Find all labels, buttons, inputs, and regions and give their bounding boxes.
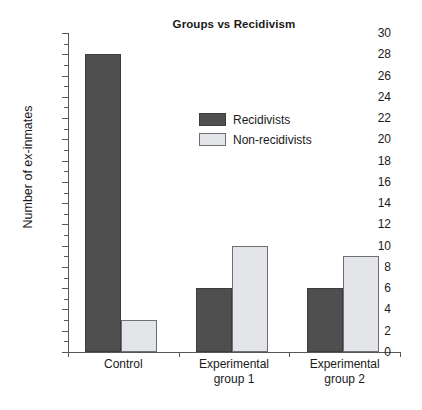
legend-swatch-icon-recidivists [199,113,226,126]
x-category-label-line: Experimental [310,357,380,371]
y-tick-label-18: 18 [378,154,391,168]
y-tick-label-16: 16 [378,175,391,189]
y-tick-9 [64,256,68,257]
y-axis-label: Number of ex-inmates [21,77,35,257]
x-category-label-line: Experimental [199,357,269,371]
y-tick-label-12: 12 [378,217,391,231]
y-tick-19 [64,150,68,151]
y-tick-label-14: 14 [378,196,391,210]
y-tick-25 [64,86,68,87]
y-tick-13 [64,214,68,215]
y-tick-17 [64,171,68,172]
y-tick-20 [62,139,68,140]
y-tick-10 [62,246,68,247]
bar-recidivists-2 [196,288,232,352]
y-tick-4 [62,309,68,310]
recidivism-bar-chart: Groups vs Recidivism Number of ex-inmate… [0,0,422,410]
bar-non-recidivists-2 [232,246,268,352]
x-category-label-line: Control [104,357,143,371]
y-tick-label-24: 24 [378,90,391,104]
y-tick-1 [64,341,68,342]
plot-area: 024681012141618202224262830 [68,33,400,352]
y-tick-27 [64,65,68,66]
legend-label-recidivists: Recidivists [233,113,290,127]
legend-swatch-icon-non-recidivists [199,133,226,146]
y-tick-30 [62,33,68,34]
y-tick-label-26: 26 [378,69,391,83]
y-tick-12 [62,224,68,225]
x-axis-line [68,352,401,353]
legend-item-non-recidivists: Non-recidivists [199,131,312,148]
y-tick-label-4: 4 [384,302,391,316]
y-tick-29 [64,44,68,45]
y-tick-label-30: 30 [378,26,391,40]
y-tick-3 [64,320,68,321]
y-tick-11 [64,235,68,236]
bar-recidivists-3 [307,288,343,352]
y-tick-label-8: 8 [384,260,391,274]
y-tick-label-6: 6 [384,281,391,295]
y-tick-14 [62,203,68,204]
y-tick-15 [64,193,68,194]
bar-non-recidivists-3 [343,256,379,352]
y-tick-24 [62,97,68,98]
legend-label-non-recidivists: Non-recidivists [233,133,312,147]
x-category-label-line: group 1 [179,372,290,387]
bar-recidivists-1 [85,54,121,352]
y-tick-5 [64,299,68,300]
y-tick-label-2: 2 [384,324,391,338]
x-tick-3 [400,352,401,357]
legend-item-recidivists: Recidivists [199,111,312,128]
bar-non-recidivists-1 [121,320,157,352]
chart-title: Groups vs Recidivism [68,18,400,30]
y-tick-16 [62,182,68,183]
y-tick-label-22: 22 [378,111,391,125]
y-tick-26 [62,76,68,77]
y-tick-21 [64,129,68,130]
y-tick-6 [62,288,68,289]
y-tick-label-10: 10 [378,239,391,253]
y-tick-23 [64,107,68,108]
y-tick-2 [62,331,68,332]
y-tick-28 [62,54,68,55]
x-category-label-1: Control [68,357,179,372]
y-tick-18 [62,161,68,162]
y-tick-22 [62,118,68,119]
x-category-label-2: Experimentalgroup 1 [179,357,290,387]
x-category-label-3: Experimentalgroup 2 [289,357,400,387]
y-tick-7 [64,278,68,279]
chart-legend: Recidivists Non-recidivists [199,111,312,151]
y-tick-label-28: 28 [378,47,391,61]
x-category-label-line: group 2 [289,372,400,387]
y-tick-label-20: 20 [378,132,391,146]
y-tick-8 [62,267,68,268]
